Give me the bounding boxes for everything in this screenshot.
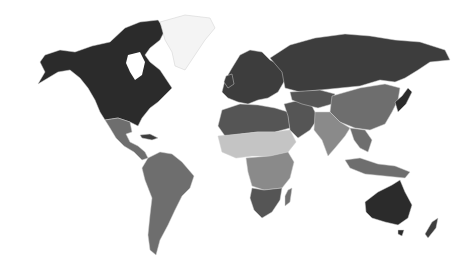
world-map	[0, 0, 474, 266]
region-caribbean[interactable]	[140, 134, 158, 140]
region-indonesia[interactable]	[345, 158, 410, 178]
region-tasmania[interactable]	[398, 230, 404, 236]
region-australia[interactable]	[365, 180, 412, 225]
region-north-america[interactable]	[38, 20, 172, 126]
region-central-africa[interactable]	[246, 152, 294, 190]
region-southern-africa[interactable]	[250, 188, 282, 218]
region-mexico-central-america[interactable]	[105, 118, 148, 160]
region-new-zealand[interactable]	[425, 218, 438, 238]
region-south-america[interactable]	[142, 152, 194, 255]
region-madagascar[interactable]	[285, 188, 292, 206]
region-greenland[interactable]	[160, 15, 215, 70]
region-russia[interactable]	[270, 34, 450, 92]
region-southeast-asia[interactable]	[350, 128, 372, 152]
